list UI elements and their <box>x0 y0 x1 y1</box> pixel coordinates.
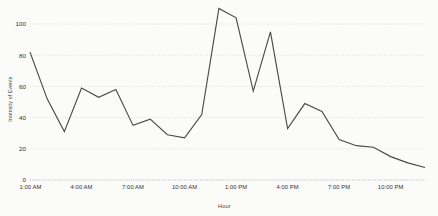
y-axis-title-wrap: Intensity of Events <box>2 0 18 216</box>
line-chart: Intensity of Events Hour 020406080100 1:… <box>0 0 438 216</box>
y-tick-label: 60 <box>0 83 26 90</box>
chart-plot-area <box>0 0 438 216</box>
y-tick-label: 80 <box>0 52 26 59</box>
y-tick-label: 40 <box>0 114 26 121</box>
x-tick-label: 7:00 AM <box>122 184 144 190</box>
x-tick-label: 7:00 PM <box>328 184 350 190</box>
y-axis-title: Intensity of Events <box>7 47 13 151</box>
x-tick-label: 10:00 AM <box>172 184 197 190</box>
x-tick-label: 10:00 PM <box>378 184 404 190</box>
y-tick-label: 20 <box>0 145 26 152</box>
x-tick-label: 1:00 AM <box>19 184 41 190</box>
x-axis-title: Hour <box>218 203 231 209</box>
x-tick-label: 4:00 AM <box>71 184 93 190</box>
data-line-series-1 <box>30 8 425 167</box>
y-tick-label: 0 <box>0 176 26 183</box>
y-tick-label: 100 <box>0 20 26 27</box>
x-tick-label: 1:00 PM <box>225 184 247 190</box>
gridlines <box>30 24 425 180</box>
x-tick-label: 4:00 PM <box>276 184 298 190</box>
